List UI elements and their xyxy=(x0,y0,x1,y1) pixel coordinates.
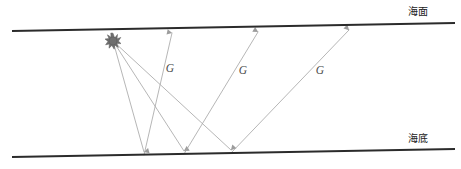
raypath-1: G xyxy=(113,33,175,155)
upgoing-ray-1 xyxy=(144,33,172,155)
starburst-core xyxy=(109,37,117,45)
ray-label-2: G xyxy=(239,64,248,76)
upgoing-ray-2 xyxy=(184,32,258,154)
boundaries-group xyxy=(12,23,455,157)
sea-surface-line xyxy=(12,23,455,31)
sea-bottom-label: 海底 xyxy=(408,132,428,144)
upgoing-ray-3 xyxy=(231,30,349,153)
ray-label-1: G xyxy=(166,62,175,74)
seismic-source-icon xyxy=(105,33,121,49)
ray-path-figure: G G G 海面 海底 xyxy=(0,0,461,169)
diagram-canvas: G G G 海面 海底 xyxy=(0,0,461,169)
raypath-2: G xyxy=(113,32,258,154)
ray-label-3: G xyxy=(316,64,325,76)
sea-surface-label: 海面 xyxy=(408,5,428,17)
downgoing-ray-1 xyxy=(113,41,144,152)
downgoing-ray-3 xyxy=(113,41,231,150)
raypaths-group: G G G xyxy=(113,30,349,155)
